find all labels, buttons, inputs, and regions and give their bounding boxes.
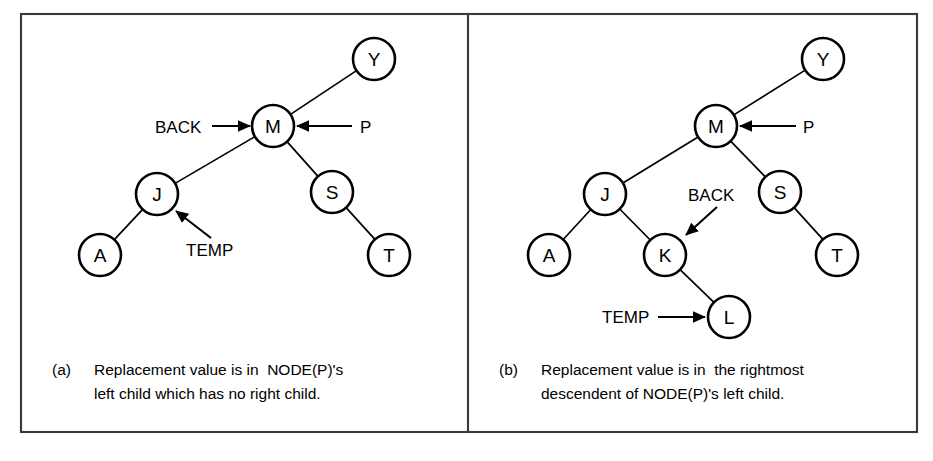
tree-node-label-j-panel-a: J <box>152 184 162 205</box>
tree-node-label-k-panel-b: K <box>659 245 672 266</box>
tree-node-label-y-panel-b: Y <box>817 49 830 70</box>
tree-edge-j-a <box>114 209 142 239</box>
caption-line2-panel-a: left child which has no right child. <box>94 385 321 402</box>
tree-edge-j-k <box>620 209 651 240</box>
tree-edge-s-t <box>346 208 375 240</box>
figure-container: BACKPTEMPPBACKTEMP YMJSATYMJSAKTL (a)Rep… <box>0 0 933 461</box>
tree-node-label-a-panel-b: A <box>543 245 556 266</box>
tree-edge-m-y <box>734 70 805 115</box>
pointer-label-temp-panel-b: TEMP <box>602 308 649 327</box>
tree-node-label-m-panel-b: M <box>708 116 724 137</box>
tree-edge-m-y <box>290 71 356 115</box>
tree-node-label-s-panel-b: S <box>774 182 787 203</box>
pointer-arrow-temp-panel-a <box>176 211 211 238</box>
caption-line2-panel-b: descendent of NODE(P)'s left child. <box>541 385 784 402</box>
tree-node-label-j-panel-b: J <box>600 184 610 205</box>
tree-node-label-s-panel-a: S <box>326 182 339 203</box>
tree-edge-m-s <box>731 141 766 177</box>
tree-edge-k-l <box>680 270 714 303</box>
tree-node-label-a-panel-a: A <box>94 245 107 266</box>
pointer-label-back-panel-a: BACK <box>155 118 202 137</box>
tree-node-label-l-panel-b: L <box>724 307 735 328</box>
tree-edge-m-j <box>175 137 255 184</box>
pointer-label-p-panel-b: P <box>803 118 814 137</box>
tree-node-label-t-panel-a: T <box>383 245 395 266</box>
binary-tree-deletion-figure: BACKPTEMPPBACKTEMP YMJSATYMJSAKTL (a)Rep… <box>0 0 933 461</box>
caption-line1-panel-b: Replacement value is in the rightmost <box>541 361 804 378</box>
tree-node-label-t-panel-b: T <box>831 245 843 266</box>
tree-edge-m-s <box>287 142 318 177</box>
caption-line1-panel-a: Replacement value is in NODE(P)'s <box>94 361 344 378</box>
tree-node-label-y-panel-a: Y <box>368 49 381 70</box>
pointer-annotations: BACKPTEMPPBACKTEMP <box>155 118 814 327</box>
caption-marker-panel-b: (b) <box>499 361 518 378</box>
pointer-label-temp-panel-a: TEMP <box>186 241 233 260</box>
tree-node-label-m-panel-a: M <box>265 116 281 137</box>
pointer-label-p-panel-a: P <box>360 118 371 137</box>
tree-edge-s-t <box>794 208 823 240</box>
caption-marker-panel-a: (a) <box>52 361 71 378</box>
tree-edge-m-j <box>623 137 698 183</box>
pointer-label-back-panel-b: BACK <box>688 186 735 205</box>
pointer-arrow-back-panel-b <box>686 207 717 235</box>
tree-edge-j-a <box>563 209 591 239</box>
panel-captions: (a)Replacement value is in NODE(P)'sleft… <box>52 361 804 402</box>
